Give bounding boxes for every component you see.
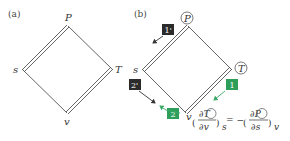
step-2prime-arrow	[139, 91, 155, 103]
panel-a-label: (a)	[8, 9, 20, 19]
step-2prime-label: 2'	[131, 81, 138, 90]
step-1prime: 1'	[153, 24, 174, 43]
vertex-T-label: T	[115, 64, 123, 75]
maxwell-relation-diagram: (a) P s T v (b) P s	[0, 0, 290, 141]
edge-s-v	[23, 70, 67, 113]
edge-P-T	[188, 26, 232, 70]
lhs-open-paren: (	[192, 118, 196, 128]
lhs-close-paren: )	[216, 118, 220, 128]
edge-P-T	[68, 26, 113, 70]
vertex-s-label: s	[133, 64, 138, 75]
vertex-P-label: P	[183, 13, 191, 24]
maxwell-equation: ( ∂T ∂v ) s = − ( ∂P ∂s ) v	[192, 109, 279, 133]
rhs-denominator: ∂s	[251, 122, 261, 132]
step-1: 1	[214, 79, 238, 100]
step-1prime-arrow	[153, 36, 163, 43]
step-2prime: 2'	[129, 79, 155, 103]
edge-T-v-double	[185, 67, 232, 114]
rhs-open-paren: (	[243, 118, 247, 128]
vertex-P-label: P	[64, 12, 72, 23]
step-1-arrow	[214, 91, 225, 100]
vertex-v-label: v	[64, 116, 70, 127]
step-1prime-label: 1'	[165, 26, 172, 35]
step-1-label: 1	[230, 81, 235, 90]
lhs-numerator: ∂T	[199, 109, 211, 119]
panel-b: (b) P s T v 1' 2'	[129, 9, 279, 132]
equals-minus: = −	[226, 115, 244, 125]
panel-b-label: (b)	[134, 9, 147, 19]
rhs-numerator: ∂P	[250, 109, 262, 119]
edge-T-v-double	[66, 67, 113, 114]
vertex-T-label: T	[238, 63, 246, 74]
edge-P-s-double	[22, 25, 69, 72]
vertex-s-label: s	[13, 64, 18, 75]
rhs-subscript: v	[274, 122, 279, 132]
step-2-arrow	[160, 106, 166, 110]
lhs-denominator: ∂v	[199, 122, 209, 132]
panel-a: (a) P s T v	[8, 9, 123, 127]
step-2: 2	[160, 106, 180, 119]
edge-s-v	[143, 70, 186, 113]
rhs-close-paren: )	[268, 118, 272, 128]
